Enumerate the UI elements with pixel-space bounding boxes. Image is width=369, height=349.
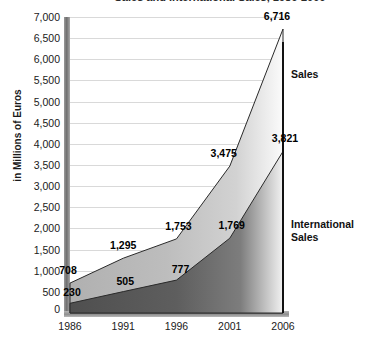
- sales-value-label: 6,716: [264, 10, 290, 22]
- y-axis-zero-label: 0: [44, 303, 60, 315]
- y-axis-ticks: 5001,0001,5002,0002,5003,0003,5004,0004,…: [14, 0, 60, 349]
- y-tick-label: 2,000: [14, 222, 60, 234]
- legend-international-sales: International Sales: [291, 218, 354, 244]
- y-tick-label: 2,500: [14, 201, 60, 213]
- y-tick-label: 5,000: [14, 96, 60, 108]
- chart-container: Sales and International Sales, 1986-2006…: [0, 0, 369, 349]
- y-tick-label: 1,500: [14, 244, 60, 256]
- y-tick-label: 1,000: [14, 265, 60, 277]
- y-tick-label: 4,000: [14, 138, 60, 150]
- international-sales-value-label: 1,769: [219, 219, 245, 231]
- x-tick-label: 2006: [271, 320, 294, 332]
- sales-value-label: 1,753: [165, 220, 191, 232]
- legend-sales: Sales: [291, 68, 318, 81]
- x-tick-label: 2001: [218, 320, 241, 332]
- y-tick-label: 3,000: [14, 180, 60, 192]
- x-tick-label: 1991: [112, 320, 135, 332]
- y-tick-label: 500: [14, 286, 60, 298]
- chart-title: Sales and International Sales, 1986-2006: [95, 0, 345, 3]
- y-tick-label: 4,500: [14, 117, 60, 129]
- sales-value-label: 1,295: [110, 239, 136, 251]
- international-sales-value-label: 230: [63, 286, 81, 298]
- x-tick-label: 1986: [58, 320, 81, 332]
- x-tick-label: 1996: [165, 320, 188, 332]
- y-tick-label: 5,500: [14, 74, 60, 86]
- international-sales-value-label: 505: [116, 275, 134, 287]
- sales-value-label: 3,475: [211, 147, 237, 159]
- sales-value-label: 708: [59, 264, 77, 276]
- y-tick-label: 7,000: [14, 11, 60, 23]
- y-tick-label: 6,500: [14, 32, 60, 44]
- y-tick-label: 3,500: [14, 159, 60, 171]
- international-sales-value-label: 777: [172, 263, 190, 275]
- international-sales-value-label: 3,821: [272, 132, 298, 144]
- right-axis-rule: [282, 42, 284, 313]
- y-tick-label: 6,000: [14, 53, 60, 65]
